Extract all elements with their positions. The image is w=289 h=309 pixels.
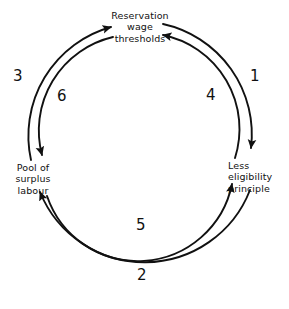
arrow-step-3 (28, 27, 111, 160)
step-number-5: 5 (136, 218, 146, 233)
step-number-3: 3 (13, 69, 23, 84)
step-number-4: 4 (206, 88, 216, 103)
node-pool-of-surplus-labour: Pool of surplus labour (4, 162, 62, 196)
node-reservation-wage-thresholds: Reservation wage thresholds (97, 10, 183, 44)
arrow-step-6 (39, 37, 113, 155)
step-number-1: 1 (250, 69, 260, 84)
arrow-step-4 (163, 35, 239, 158)
node-less-eligibility-principle: Less eligibility principle (228, 160, 288, 194)
cycle-diagram: Reservation wage thresholds Less eligibi… (0, 0, 289, 309)
cycle-arcs (0, 0, 289, 309)
step-number-6: 6 (57, 89, 67, 104)
step-number-2: 2 (137, 268, 147, 283)
